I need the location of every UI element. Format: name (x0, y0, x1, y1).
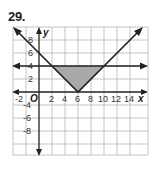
svg-text:6: 6 (28, 48, 33, 58)
svg-text:-6: -6 (23, 113, 31, 123)
svg-text:10: 10 (98, 94, 108, 104)
svg-text:8: 8 (28, 35, 33, 45)
svg-text:8: 8 (88, 94, 93, 104)
x-tick-labels: -2 O 2 4 6 8 10 12 14 (15, 93, 134, 104)
svg-text:2: 2 (28, 74, 33, 84)
svg-text:12: 12 (111, 94, 121, 104)
svg-text:14: 14 (124, 94, 134, 104)
svg-text:O: O (30, 93, 38, 104)
y-axis-arrow-up-icon (36, 27, 42, 34)
svg-text:-2: -2 (15, 94, 23, 104)
svg-text:4: 4 (62, 94, 67, 104)
svg-text:4: 4 (28, 61, 33, 71)
svg-text:6: 6 (75, 94, 80, 104)
line-y4-arrow-right-icon (140, 63, 148, 70)
y-axis-label: y (42, 27, 49, 38)
coordinate-graph: 8 6 4 2 -4 -6 -8 -2 O 2 4 6 8 10 12 14 x… (0, 0, 153, 169)
svg-text:-8: -8 (23, 126, 31, 136)
x-axis-label: x (137, 93, 144, 104)
svg-text:2: 2 (49, 94, 54, 104)
y-tick-labels: 8 6 4 2 -4 -6 -8 (23, 35, 33, 136)
